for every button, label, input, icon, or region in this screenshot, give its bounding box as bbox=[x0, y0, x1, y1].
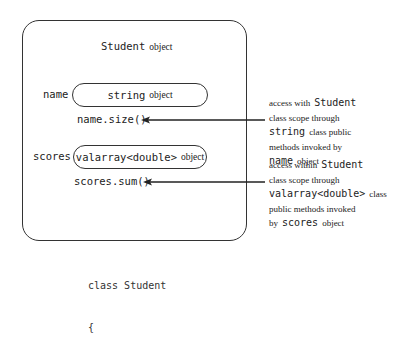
note-text: access with bbox=[269, 98, 310, 108]
class-code-listing: class Student { private string name; val… bbox=[88, 252, 257, 341]
note-code: Student bbox=[321, 159, 363, 170]
code-line: { bbox=[88, 321, 257, 335]
note-text: object bbox=[322, 218, 344, 228]
note-text: methods invoked by bbox=[269, 142, 342, 152]
note-text: class public bbox=[309, 127, 351, 137]
note-code: Student bbox=[314, 97, 356, 108]
code-line: class Student bbox=[88, 279, 257, 293]
note-text: class scope through bbox=[269, 175, 339, 185]
note-code: string bbox=[269, 126, 305, 137]
note-text: by bbox=[269, 218, 278, 228]
note-text: class bbox=[369, 189, 387, 199]
note-text: access within bbox=[269, 160, 317, 170]
note-code: scores bbox=[282, 217, 318, 228]
note-code: valarray<double> bbox=[269, 188, 365, 199]
scores-access-note: access within Student class scope throug… bbox=[269, 157, 387, 230]
